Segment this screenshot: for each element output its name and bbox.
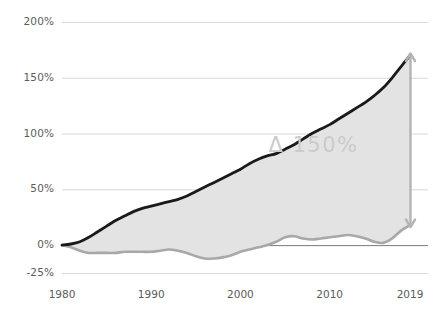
x-axis-tick-label: 2000 [210,288,270,300]
delta-annotation-label: Δ 150% [268,133,358,157]
x-axis-tick-label: 1980 [32,288,92,300]
y-axis-tick-label: -25% [26,266,54,278]
delta-area-chart: 200%150%100%50%0%-25% 198019902000201020… [0,0,437,313]
y-axis-tick-label: 100% [24,127,54,139]
x-axis-tick-label: 1990 [121,288,181,300]
y-axis-tick-label: 200% [24,15,54,27]
x-axis-tick-label: 2019 [380,288,437,300]
x-axis-tick-label: 2010 [300,288,360,300]
chart-plot-area [0,0,437,313]
y-axis-tick-label: 50% [30,182,54,194]
y-axis-tick-label: 150% [24,71,54,83]
y-axis-tick-label: 0% [37,238,54,250]
